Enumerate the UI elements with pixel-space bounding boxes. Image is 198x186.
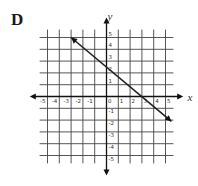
- x-tick-label: -1: [87, 98, 92, 104]
- y-tick-label: -5: [109, 156, 115, 162]
- x-tick-label: -2: [75, 98, 80, 104]
- y-tick-label: 5: [109, 31, 113, 37]
- arrow-right-icon: [177, 94, 183, 100]
- arrow-down-icon: [104, 170, 110, 176]
- y-tick-label: -3: [109, 132, 115, 138]
- y-axis-label: y: [107, 10, 113, 22]
- x-tick-label: -4: [52, 98, 58, 104]
- x-tick-label: 0: [108, 98, 112, 104]
- x-tick-label: 1: [120, 98, 124, 104]
- x-axis-label: x: [187, 91, 193, 103]
- y-tick-label: -2: [109, 120, 114, 126]
- y-tick-label: -4: [109, 144, 115, 150]
- x-tick-label: -3: [64, 98, 70, 104]
- arrow-left-icon: [30, 94, 36, 100]
- x-tick-label: -5: [40, 98, 46, 104]
- x-tick-label: 2: [132, 98, 136, 104]
- y-tick-label: 4: [109, 42, 113, 48]
- y-tick-label: -1: [109, 108, 114, 114]
- coordinate-plane: xy-5-4-3-2-101234554321-1-2-3-4-5: [0, 0, 198, 186]
- x-tick-label: 4: [155, 98, 159, 104]
- x-tick-label: 5: [167, 98, 171, 104]
- y-tick-label: 1: [109, 78, 113, 84]
- y-tick-label: 3: [109, 54, 113, 60]
